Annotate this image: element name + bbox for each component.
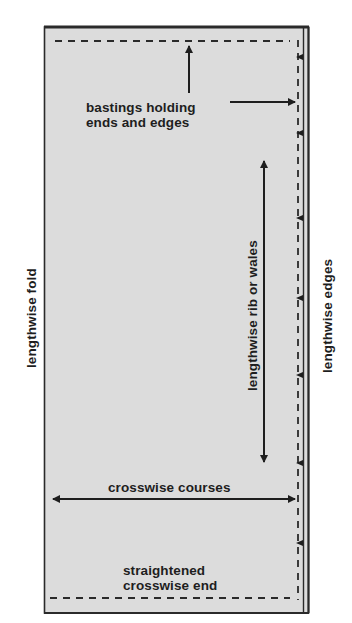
diagram-graphics <box>0 0 352 623</box>
lengthwise-edges-label: lengthwise edges <box>320 259 335 373</box>
crosswise-courses-label: crosswise courses <box>108 480 231 495</box>
straightened-end-label: straightened crosswise end <box>123 563 217 593</box>
lengthwise-fold-label: lengthwise fold <box>24 268 39 368</box>
straightened-end-line2: crosswise end <box>123 578 217 593</box>
bastings-label-line1: bastings holding <box>86 100 196 115</box>
knit-fabric-diagram: bastings holding ends and edges lengthwi… <box>0 0 352 623</box>
lengthwise-rib-label: lengthwise rib or wales <box>245 240 260 391</box>
straightened-end-line1: straightened <box>123 563 217 578</box>
bastings-label: bastings holding ends and edges <box>86 100 196 130</box>
bastings-label-line2: ends and edges <box>86 115 196 130</box>
